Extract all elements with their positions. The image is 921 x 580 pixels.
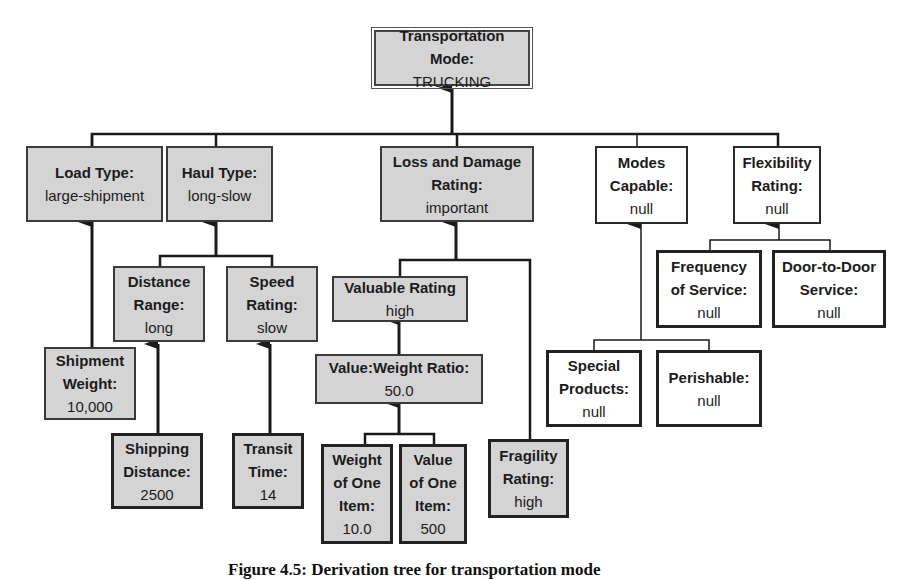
node-value: null [630,197,653,220]
node-valuable-rating[interactable]: Valuable Rating high [332,276,468,322]
node-label: Distance [128,270,191,293]
node-label: Item: [415,494,451,517]
node-door-to-door-service[interactable]: Door-to-Door Service: null [772,250,886,328]
node-distance-range[interactable]: Distance Range: long [113,266,205,342]
node-weight-of-one-item[interactable]: Weight of One Item: 10.0 [321,444,393,544]
node-label: Load Type: [55,161,134,184]
node-label: Range: [134,293,185,316]
node-label: Item: [339,494,375,517]
node-label: Rating: [751,174,803,197]
node-value-of-one-item[interactable]: Value of One Item: 500 [399,444,467,544]
node-label: Value [413,448,452,471]
node-label: Loss and Damage [393,150,521,173]
node-label: Transit [243,437,292,460]
node-label: Products: [559,377,629,400]
node-value: null [582,400,605,423]
node-transit-time[interactable]: Transit Time: 14 [232,433,304,509]
figure-caption: Figure 4.5: Derivation tree for transpor… [228,560,601,580]
node-flexibility-rating[interactable]: Flexibility Rating: null [733,146,821,224]
node-label: Perishable: [669,366,750,389]
node-shipping-distance[interactable]: Shipping Distance: 2500 [111,433,203,509]
node-label: Capable: [610,174,673,197]
node-label: Shipping [125,437,189,460]
node-label: Transportation Mode: [376,24,528,70]
node-value: null [697,389,720,412]
node-value: 2500 [140,483,173,506]
node-label: Fragility [499,444,557,467]
node-value: 10.0 [342,517,371,540]
node-fragility-rating[interactable]: Fragility Rating: high [488,439,569,518]
node-value: high [514,490,542,513]
node-value: long [145,316,173,339]
node-label: Service: [800,278,858,301]
node-label: Special [568,354,621,377]
node-label: Valuable Rating [344,276,456,299]
node-frequency-of-service[interactable]: Frequency of Service: null [656,250,762,328]
node-value: null [697,301,720,324]
node-perishable[interactable]: Perishable: null [656,350,762,427]
node-label: Rating: [246,293,298,316]
node-label: of One [409,471,457,494]
node-value: null [817,301,840,324]
node-label: Distance: [123,460,191,483]
node-label: Time: [248,460,288,483]
node-value-weight-ratio[interactable]: Value:Weight Ratio: 50.0 [315,354,483,404]
node-label: Frequency [671,255,747,278]
node-value: important [426,196,489,219]
node-label: Rating: [431,173,483,196]
node-label: Modes [618,151,666,174]
node-value: 500 [420,517,445,540]
node-value: slow [257,316,287,339]
node-value: null [765,197,788,220]
node-haul-type[interactable]: Haul Type: long-slow [166,146,273,222]
node-value: long-slow [188,184,251,207]
node-label: of Service: [671,278,748,301]
node-loss-and-damage-rating[interactable]: Loss and Damage Rating: important [380,146,534,222]
node-label: Haul Type: [182,161,258,184]
node-value: high [386,299,414,322]
node-value: 14 [260,483,277,506]
node-special-products[interactable]: Special Products: null [546,350,642,427]
node-label: Weight: [63,372,118,395]
node-value: large-shipment [45,184,144,207]
node-modes-capable[interactable]: Modes Capable: null [595,146,688,224]
node-label: Flexibility [742,151,811,174]
node-label: Value:Weight Ratio: [329,356,470,379]
node-value: 10,000 [67,395,113,418]
node-label: of One [333,471,381,494]
node-label: Speed [249,270,294,293]
node-speed-rating[interactable]: Speed Rating: slow [226,266,318,342]
node-load-type[interactable]: Load Type: large-shipment [26,146,163,222]
node-transportation-mode[interactable]: Transportation Mode: TRUCKING [374,30,530,86]
node-label: Shipment [56,349,124,372]
node-label: Door-to-Door [782,255,876,278]
node-shipment-weight[interactable]: Shipment Weight: 10,000 [44,347,136,420]
node-label: Rating: [503,467,555,490]
node-value: 50.0 [384,379,413,402]
node-value: TRUCKING [413,70,491,93]
node-label: Weight [332,448,382,471]
